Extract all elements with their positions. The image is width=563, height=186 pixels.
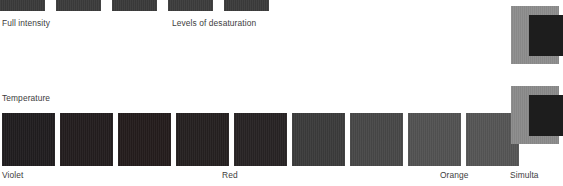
swatch-texture [112, 0, 157, 11]
intensity-swatch [168, 0, 213, 11]
red-label: Red [222, 170, 238, 180]
swatch-texture [292, 113, 345, 166]
temperature-swatch-red-orange-1 [292, 113, 345, 166]
swatch-texture [168, 0, 213, 11]
swatch-texture [350, 113, 403, 166]
intensity-swatch [224, 0, 269, 11]
temperature-swatch-red-dark [176, 113, 229, 166]
intensity-swatch [56, 0, 101, 11]
swatch-texture [224, 0, 269, 11]
temperature-swatch-violet [2, 113, 55, 166]
contrast-panel-inner-bottom [529, 95, 563, 136]
temperature-swatch-violet-red-2 [118, 113, 171, 166]
levels-of-desaturation-label: Levels of desaturation [172, 18, 256, 28]
violet-label: Violet [2, 170, 23, 180]
temperature-swatch-violet-red-1 [60, 113, 113, 166]
contrast-panel-inner-top [529, 15, 563, 56]
simultaneous-contrast-label: Simulta [510, 170, 539, 180]
temperature-swatch-orange-1 [408, 113, 461, 166]
intensity-swatch [0, 0, 45, 11]
full-intensity-label: Full intensity [2, 18, 50, 28]
swatch-texture [176, 113, 229, 166]
swatch-texture [408, 113, 461, 166]
temperature-label: Temperature [2, 93, 50, 103]
intensity-swatch [112, 0, 157, 11]
temperature-swatch-red-orange-2 [350, 113, 403, 166]
swatch-texture [2, 113, 55, 166]
swatch-texture [0, 0, 45, 11]
swatch-texture [60, 113, 113, 166]
orange-label: Orange [440, 170, 469, 180]
swatch-texture [118, 113, 171, 166]
temperature-swatch-red [234, 113, 287, 166]
swatch-texture [234, 113, 287, 166]
swatch-texture [56, 0, 101, 11]
